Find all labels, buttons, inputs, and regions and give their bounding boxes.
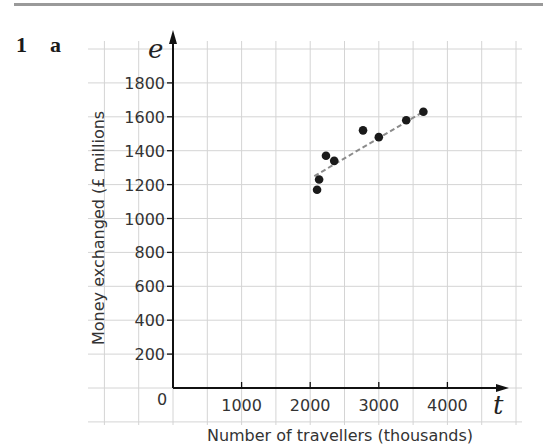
data-point (375, 133, 384, 142)
y-tick-label: 1000 (124, 210, 165, 229)
y-tick-label: 600 (134, 277, 165, 296)
y-tick-label: 200 (134, 345, 165, 364)
data-point (359, 126, 368, 135)
x-axis-label: Number of travellers (thousands) (207, 426, 473, 445)
x-tick-label: 2000 (290, 396, 331, 415)
y-tick-label: 1800 (124, 74, 165, 93)
data-point (322, 151, 331, 160)
y-axis-arrow-icon (169, 30, 177, 44)
y-axis-symbol: e (148, 34, 163, 64)
y-tick-label: 1200 (124, 176, 165, 195)
y-tick-label: 1600 (124, 108, 165, 127)
y-tick-label: 800 (134, 243, 165, 262)
y-axis-label: Money exchanged (£ millions (89, 111, 108, 345)
y-tick-label: 1400 (124, 142, 165, 161)
data-point (419, 107, 428, 116)
y-tick-label: 400 (134, 311, 165, 330)
origin-label: 0 (157, 390, 167, 409)
axes (169, 30, 509, 392)
x-tick-label: 4000 (427, 396, 468, 415)
x-axis-symbol: t (493, 390, 504, 420)
grid (88, 41, 522, 425)
data-point (313, 185, 322, 194)
ticks: 2004006008001000120014001600180010002000… (124, 74, 467, 415)
data-point (402, 116, 411, 125)
data-point (330, 157, 339, 166)
scatter-chart: 2004006008001000120014001600180010002000… (0, 0, 543, 446)
data-point (315, 175, 324, 184)
x-tick-label: 1000 (221, 396, 262, 415)
x-tick-label: 3000 (358, 396, 399, 415)
